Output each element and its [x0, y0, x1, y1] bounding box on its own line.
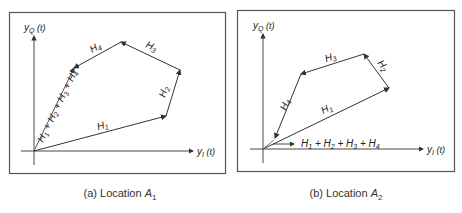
label-sum: H1 + H2 + H3 + H4 — [301, 138, 380, 150]
label-h1: H1 — [319, 101, 334, 117]
panel-location-a1: yQ (t) yI (t) H1 H2 H3 H4 H1 + H2 + H3 +… — [0, 0, 231, 213]
caption-a: (a) Location A1 — [60, 187, 180, 202]
label-sum: H1 + H2 + H3 + H4 — [35, 68, 80, 144]
caption-b: (b) Location A2 — [286, 187, 406, 202]
phasor-diagram-b: yQ (t) yI (t) H1 H2 H3 H4 H1 + H2 + H3 +… — [231, 0, 462, 213]
phasor-diagram-a: yQ (t) yI (t) H1 H2 H3 H4 H1 + H2 + H3 +… — [0, 0, 231, 213]
label-h2: H2 — [156, 85, 171, 99]
panel-location-a2: yQ (t) yI (t) H1 H2 H3 H4 H1 + H2 + H3 +… — [231, 0, 462, 213]
y-axis-label: yQ (t) — [252, 20, 274, 33]
label-h3: H3 — [144, 39, 159, 55]
x-axis-label: yI (t) — [196, 146, 215, 158]
y-axis-label: yQ (t) — [23, 22, 45, 35]
x-axis-label: yI (t) — [426, 144, 445, 156]
label-h1: H1 — [96, 118, 110, 132]
